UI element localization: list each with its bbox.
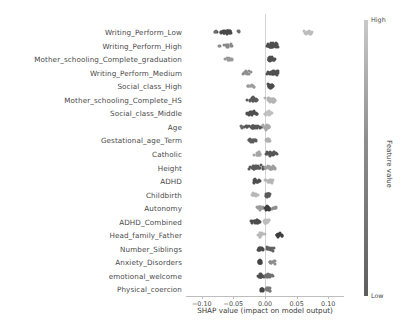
shap-point	[259, 206, 262, 209]
feature-label: Social_class_Middle	[110, 109, 182, 118]
beeswarm-row	[186, 269, 344, 283]
shap-point	[272, 97, 275, 100]
feature-label: Age	[168, 122, 182, 131]
shap-point	[249, 138, 252, 141]
shap-point	[257, 248, 260, 251]
shap-point	[277, 234, 280, 237]
colorbar-gradient	[364, 20, 368, 296]
shap-point	[254, 138, 257, 141]
beeswarm-row	[186, 282, 344, 296]
beeswarm-row	[186, 39, 344, 53]
beeswarm-row	[186, 66, 344, 80]
shap-point	[275, 152, 278, 155]
shap-point	[258, 221, 261, 224]
beeswarm-row	[186, 228, 344, 242]
shap-point	[310, 30, 313, 33]
feature-label: emotional_welcome	[109, 271, 182, 280]
beeswarm-row	[186, 161, 344, 175]
feature-label: ADHD_Combined	[119, 217, 182, 226]
beeswarm-row	[186, 79, 344, 93]
shap-point	[254, 98, 257, 101]
beeswarm-row	[186, 201, 344, 215]
feature-label: Head_family_Father	[109, 231, 182, 240]
shap-point	[268, 87, 271, 90]
shap-point	[218, 44, 221, 47]
shap-point	[230, 43, 233, 46]
shap-point	[220, 30, 223, 33]
x-tick-mark	[265, 296, 266, 299]
shap-point	[225, 44, 228, 47]
shap-point	[263, 232, 266, 235]
shap-point	[249, 71, 252, 74]
beeswarm-row	[186, 106, 344, 120]
shap-point	[269, 45, 272, 48]
shap-point	[246, 126, 249, 129]
shap-point	[250, 114, 253, 117]
x-tick-mark	[297, 296, 298, 299]
shap-point	[255, 192, 258, 195]
shap-point	[276, 45, 279, 48]
shap-point	[272, 152, 275, 155]
beeswarm-row	[186, 25, 344, 39]
shap-point	[250, 111, 253, 114]
shap-point	[272, 167, 275, 170]
shap-point	[258, 154, 261, 157]
feature-label: Anxiety_Disorders	[115, 258, 182, 267]
shap-point	[242, 72, 245, 75]
shap-point	[246, 98, 249, 101]
shap-point	[268, 138, 271, 141]
beeswarm-row	[186, 147, 344, 161]
x-axis-title: SHAP value (impact on model output)	[186, 306, 344, 315]
feature-label: Writing_Perform_High	[102, 41, 182, 50]
shap-point	[265, 128, 268, 131]
feature-label: Autonomy	[144, 204, 182, 213]
shap-point	[215, 30, 218, 33]
shap-point	[255, 126, 258, 129]
shap-summary-plot: Writing_Perform_LowWriting_Perform_HighM…	[0, 0, 409, 328]
beeswarm-row	[186, 255, 344, 269]
shap-point	[257, 181, 260, 184]
colorbar-high-label: High	[371, 16, 386, 24]
shap-point	[273, 58, 276, 61]
shap-point	[241, 126, 244, 129]
feature-label: Writing_Perform_Low	[105, 28, 182, 37]
x-tick-mark	[202, 296, 203, 299]
x-tick-mark	[328, 296, 329, 299]
shap-point	[270, 72, 273, 75]
shap-point	[280, 234, 283, 237]
shap-point	[263, 97, 266, 100]
shap-point	[303, 30, 306, 33]
beeswarm-row	[186, 188, 344, 202]
shap-point	[268, 289, 271, 292]
beeswarm-row	[186, 93, 344, 107]
shap-point	[273, 260, 276, 263]
x-tick-mark	[233, 296, 234, 299]
shap-point	[253, 220, 256, 223]
shap-point	[270, 262, 273, 265]
shap-point	[268, 273, 271, 276]
shap-point	[265, 153, 268, 156]
feature-label: ADHD	[160, 177, 182, 186]
shap-point	[276, 70, 279, 73]
beeswarm-row	[186, 52, 344, 66]
shap-point	[273, 70, 276, 73]
shap-point	[259, 261, 262, 264]
shap-point	[246, 85, 249, 88]
shap-point	[267, 166, 270, 169]
feature-label: Physical_coercion	[117, 285, 182, 294]
colorbar-title: Feature value	[385, 140, 393, 188]
feature-label: Mother_schooling_Complete_graduation	[34, 55, 182, 64]
shap-point	[252, 165, 255, 168]
feature-label: Childbirth	[146, 190, 182, 199]
shap-point	[266, 207, 269, 210]
beeswarm-row	[186, 215, 344, 229]
shap-point	[268, 110, 271, 113]
shap-point	[268, 58, 271, 61]
shap-point	[257, 178, 260, 181]
feature-label: Number_Siblings	[120, 244, 182, 253]
feature-label: Gestational_age_Term	[101, 136, 182, 145]
shap-point	[272, 44, 275, 47]
shap-point	[269, 155, 272, 158]
shap-point	[226, 58, 229, 61]
shap-point	[268, 100, 271, 103]
